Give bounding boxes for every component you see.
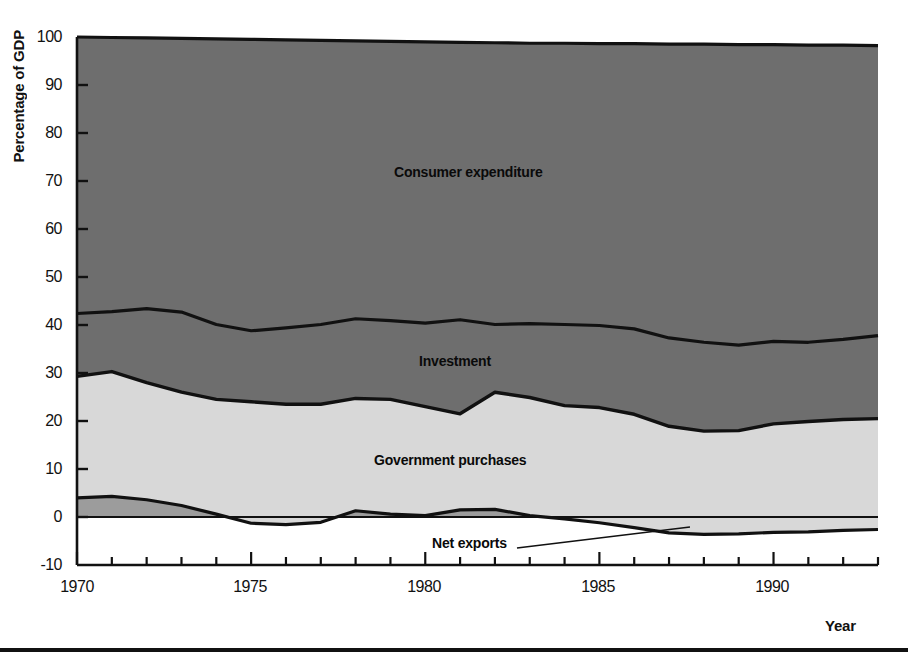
net-exports-leader-line (517, 527, 690, 548)
area-label-consumer-expenditure: Consumer expenditure (394, 164, 542, 180)
area-label-investment: Investment (419, 353, 491, 369)
chart-plot-area (0, 0, 908, 662)
area-label-net-exports: Net exports (432, 535, 507, 551)
stacked-area-chart-figure: Percentage of GDP 100 90 80 70 60 50 40 … (0, 0, 908, 662)
area-consumer-expenditure (77, 37, 878, 345)
net-exports-callout-line (517, 527, 690, 548)
area-label-government-purchases: Government purchases (374, 452, 526, 468)
bottom-horizontal-rule (0, 648, 908, 652)
